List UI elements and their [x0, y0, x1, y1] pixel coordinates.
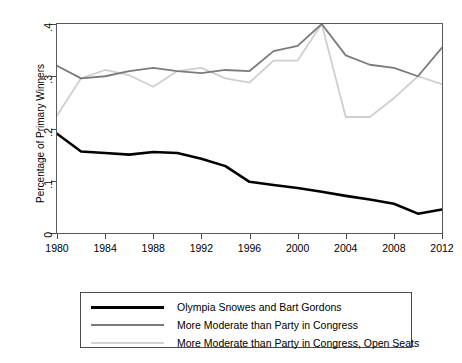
x-tick-mark: [105, 234, 106, 239]
legend-item-0: Olympia Snowes and Bart Gordons: [91, 298, 342, 316]
legend-label-0: Olympia Snowes and Bart Gordons: [177, 302, 342, 313]
legend-swatch-more-moderate-than-party-in-congress: [91, 324, 164, 326]
x-tick-label: 2004: [334, 242, 357, 254]
x-tick-label: 2008: [382, 242, 405, 254]
x-tick-label: 2012: [430, 242, 453, 254]
x-tick-mark: [250, 234, 251, 239]
series-lines: [57, 24, 442, 233]
chart-legend: Olympia Snowes and Bart Gordons More Mod…: [80, 292, 412, 348]
y-tick-label: .2: [42, 128, 54, 164]
series-line: [57, 134, 442, 214]
x-tick-label: 1988: [142, 242, 165, 254]
legend-swatch-olympia-snowes-and-bart-gordons: [91, 306, 164, 309]
x-tick-label: 1980: [45, 242, 68, 254]
x-tick-mark: [298, 234, 299, 239]
x-tick-mark: [201, 234, 202, 239]
x-tick-label: 2000: [286, 242, 309, 254]
chart-figure: Percentage of Primary Winners 0.1.2.3.4 …: [0, 0, 462, 363]
x-tick-mark: [442, 234, 443, 239]
x-tick-label: 1992: [190, 242, 213, 254]
legend-item-2: More Moderate than Party in Congress, Op…: [91, 334, 419, 352]
x-tick-mark: [346, 234, 347, 239]
x-tick-mark: [153, 234, 154, 239]
x-tick-mark: [394, 234, 395, 239]
legend-label-1: More Moderate than Party in Congress: [177, 320, 358, 331]
y-tick-label: .4: [42, 23, 54, 59]
x-tick-label: 1984: [93, 242, 116, 254]
series-line: [57, 24, 442, 78]
legend-swatch-more-moderate-than-party-in-congress-open-seats: [91, 342, 164, 344]
x-tick-mark: [57, 234, 58, 239]
y-tick-label: .1: [42, 180, 54, 216]
legend-item-1: More Moderate than Party in Congress: [91, 316, 358, 334]
plot-area: [56, 23, 443, 234]
legend-label-2: More Moderate than Party in Congress, Op…: [177, 338, 419, 349]
y-tick-label: .3: [42, 75, 54, 111]
x-tick-label: 1996: [238, 242, 261, 254]
